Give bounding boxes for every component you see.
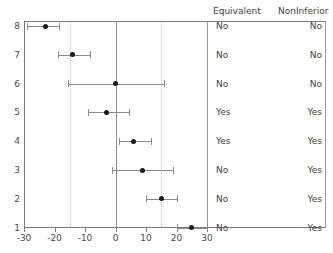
cell-equivalent-row-4: Yes <box>216 137 256 146</box>
cell-noninferior-row-8: No <box>281 22 322 31</box>
cell-noninferior-row-3: Yes <box>281 166 322 175</box>
cell-equivalent-row-6: No <box>216 80 256 89</box>
confidence-interval-cap-lower <box>27 23 28 30</box>
confidence-interval-cap-upper <box>164 80 165 87</box>
cell-noninferior-row-7: No <box>281 51 322 60</box>
y-axis-tick-label-8: 8 <box>0 22 20 31</box>
x-axis-tick-label--30: -30 <box>7 233 41 243</box>
x-axis-tick-label-10: 10 <box>129 233 163 243</box>
y-axis-tick-label-5: 5 <box>0 108 20 117</box>
forest-plot-figure: Equivalent NonInferior 12345678 -30-20-1… <box>0 0 333 253</box>
confidence-interval-cap-lower <box>88 109 89 116</box>
column-header-noninferior: NonInferior <box>278 6 328 16</box>
confidence-interval-cap-lower <box>119 138 120 145</box>
cell-equivalent-row-5: Yes <box>216 108 256 117</box>
cell-noninferior-row-6: No <box>281 80 322 89</box>
x-axis-tick--10 <box>85 228 86 232</box>
confidence-interval-cap-upper <box>90 51 91 58</box>
y-axis-tick-label-6: 6 <box>0 80 20 89</box>
point-estimate-marker <box>43 24 48 29</box>
point-estimate-marker <box>104 110 109 115</box>
y-axis-tick-label-1: 1 <box>0 224 20 233</box>
confidence-interval-cap-upper <box>59 23 60 30</box>
point-estimate-marker <box>189 225 194 230</box>
confidence-interval-cap-upper <box>207 224 208 231</box>
x-axis-tick-0 <box>116 228 117 232</box>
x-axis-tick--30 <box>24 228 25 232</box>
y-axis-tick-label-7: 7 <box>0 51 20 60</box>
x-axis-tick-label-20: 20 <box>160 233 194 243</box>
zero-line <box>116 21 117 228</box>
x-axis-tick-label--10: -10 <box>68 233 102 243</box>
table-right-edge <box>325 21 326 228</box>
cell-noninferior-row-5: Yes <box>281 108 322 117</box>
x-axis-tick-label-0: 0 <box>99 233 133 243</box>
confidence-interval-cap-lower <box>112 167 113 174</box>
confidence-interval-cap-lower <box>68 80 69 87</box>
x-axis-tick-label--20: -20 <box>38 233 72 243</box>
confidence-interval-cap-upper <box>173 167 174 174</box>
confidence-interval-cap-upper <box>151 138 152 145</box>
confidence-interval-cap-lower <box>146 195 147 202</box>
cell-equivalent-row-1: No <box>216 224 256 233</box>
confidence-interval-cap-lower <box>58 51 59 58</box>
cell-noninferior-row-4: Yes <box>281 137 322 146</box>
confidence-interval-cap-lower <box>177 224 178 231</box>
cell-equivalent-row-8: No <box>216 22 256 31</box>
column-header-equivalent: Equivalent <box>213 6 261 16</box>
cell-noninferior-row-2: Yes <box>281 195 322 204</box>
confidence-interval-cap-upper <box>129 109 130 116</box>
table-left-divider <box>207 21 208 228</box>
x-axis-tick-10 <box>146 228 147 232</box>
x-axis-tick-label-30: 30 <box>190 233 224 243</box>
y-axis-tick-label-4: 4 <box>0 137 20 146</box>
x-axis-tick--20 <box>55 228 56 232</box>
cell-equivalent-row-2: No <box>216 195 256 204</box>
y-axis-tick-label-2: 2 <box>0 195 20 204</box>
confidence-interval-cap-upper <box>177 195 178 202</box>
y-axis-tick-label-3: 3 <box>0 166 20 175</box>
cell-equivalent-row-7: No <box>216 51 256 60</box>
cell-equivalent-row-3: No <box>216 166 256 175</box>
cell-noninferior-row-1: Yes <box>281 224 322 233</box>
